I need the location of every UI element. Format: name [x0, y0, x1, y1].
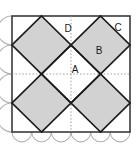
region-label-c: C	[114, 22, 121, 33]
figure-canvas: A B C D	[0, 0, 140, 148]
region-label-a: A	[72, 64, 79, 75]
geometry-figure: A B C D	[0, 0, 140, 148]
region-label-b: B	[96, 45, 103, 56]
region-label-d: D	[64, 23, 71, 34]
